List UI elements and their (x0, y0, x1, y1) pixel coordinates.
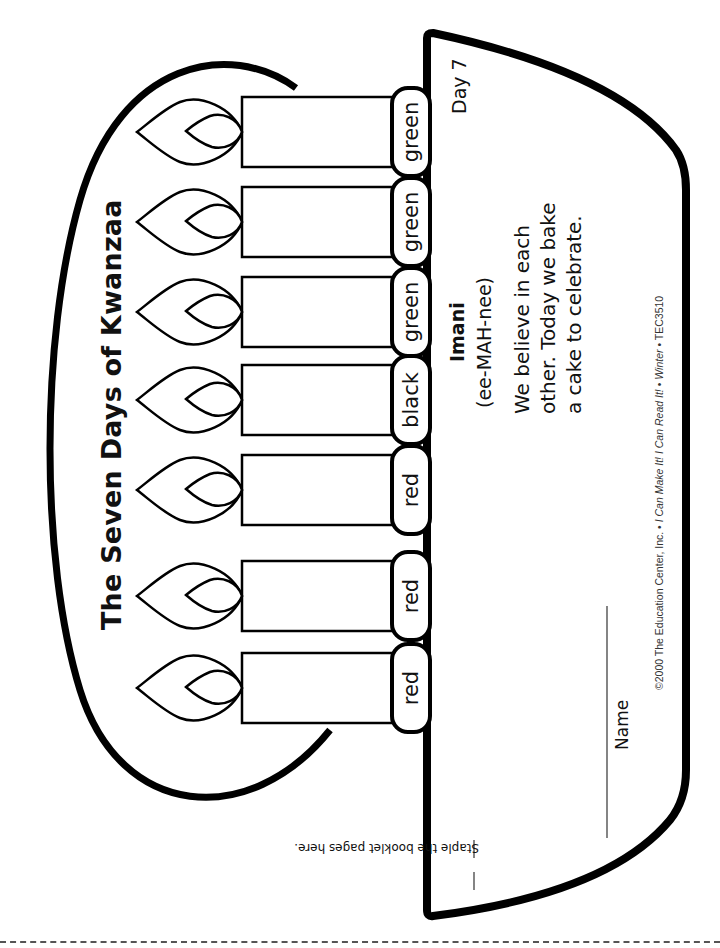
candle-label: black (398, 355, 424, 445)
principle-word: Imani (446, 302, 468, 362)
candle-label: green (398, 87, 424, 177)
description-line: We believe in each (509, 202, 535, 414)
candle-label: green (398, 177, 424, 267)
name-label: Name (612, 700, 632, 750)
candle-label: red (398, 445, 424, 535)
staple-instruction: Staple the booklet pages here. (294, 841, 479, 855)
cut-line (0, 941, 720, 943)
copyright-code: • TEC3510 (653, 296, 665, 350)
candle-label: green (398, 267, 424, 357)
candles (137, 88, 430, 732)
copyright-season: Winter (653, 350, 665, 380)
copyright-sep: • (653, 380, 665, 390)
description-line: a cake to celebrate. (561, 202, 587, 414)
description-line: other. Today we bake (535, 202, 561, 414)
booklet-page-outline (427, 33, 686, 916)
candle-label: red (398, 551, 424, 641)
candle-label: red (398, 643, 424, 733)
day-label: Day 7 (448, 58, 470, 114)
copyright-notice: ©2000 The Education Center, Inc. • I Can… (653, 296, 665, 690)
copyright-text: ©2000 The Education Center, Inc. • (653, 522, 665, 690)
pronunciation: (ee-MAH-nee) (473, 277, 495, 408)
page-title: The Seven Days of Kwanzaa (96, 199, 127, 630)
copyright-series: I Can Make It! I Can Read It! (653, 389, 665, 522)
description-text: We believe in each other. Today we bake … (509, 202, 587, 414)
